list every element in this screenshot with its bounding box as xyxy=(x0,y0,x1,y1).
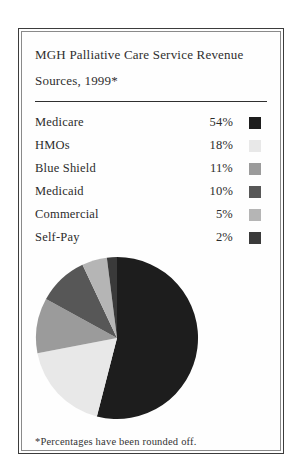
legend: Medicare 54% HMOs 18% Blue Shield 11% Me… xyxy=(35,111,267,249)
figure-frame-outer: MGH Palliative Care Service Revenue Sour… xyxy=(18,28,284,454)
legend-swatch xyxy=(249,163,261,175)
legend-row-self-pay: Self-Pay 2% xyxy=(35,226,267,249)
legend-label: Blue Shield xyxy=(35,161,195,176)
figure-title-line1: MGH Palliative Care Service Revenue xyxy=(35,42,267,68)
legend-row-commercial: Commercial 5% xyxy=(35,203,267,226)
legend-label: Commercial xyxy=(35,207,195,222)
legend-swatch xyxy=(249,232,261,244)
legend-value: 2% xyxy=(195,230,233,245)
legend-row-blue-shield: Blue Shield 11% xyxy=(35,157,267,180)
legend-label: HMOs xyxy=(35,138,195,153)
legend-row-hmos: HMOs 18% xyxy=(35,134,267,157)
footnote: *Percentages have been rounded off. xyxy=(35,436,267,447)
legend-value: 54% xyxy=(195,115,233,130)
figure-frame-inner: MGH Palliative Care Service Revenue Sour… xyxy=(21,31,281,451)
legend-value: 18% xyxy=(195,138,233,153)
legend-label: Self-Pay xyxy=(35,230,195,245)
legend-value: 10% xyxy=(195,184,233,199)
legend-swatch xyxy=(249,209,261,221)
figure-title: MGH Palliative Care Service Revenue Sour… xyxy=(35,42,267,94)
legend-swatch xyxy=(249,186,261,198)
figure-canvas: MGH Palliative Care Service Revenue Sour… xyxy=(0,0,299,476)
pie-chart-container xyxy=(35,256,199,420)
legend-value: 5% xyxy=(195,207,233,222)
legend-label: Medicaid xyxy=(35,184,195,199)
legend-row-medicaid: Medicaid 10% xyxy=(35,180,267,203)
pie-chart xyxy=(35,256,199,420)
legend-swatch xyxy=(249,140,261,152)
legend-label: Medicare xyxy=(35,115,195,130)
title-divider xyxy=(35,101,267,102)
figure-title-line2: Sources, 1999* xyxy=(35,68,267,94)
legend-value: 11% xyxy=(195,161,233,176)
legend-row-medicare: Medicare 54% xyxy=(35,111,267,134)
legend-swatch xyxy=(249,117,261,129)
